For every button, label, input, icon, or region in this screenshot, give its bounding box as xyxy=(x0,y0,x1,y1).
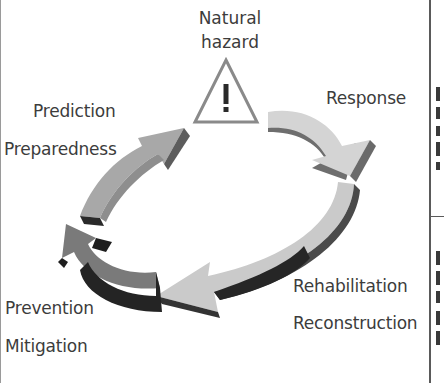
label-reconstruction: Reconstruction xyxy=(293,313,417,333)
cropped-text-fragment xyxy=(436,142,440,156)
disaster-cycle-diagram: Natural hazard Response Rehabilitation R… xyxy=(0,0,429,383)
cropped-text-fragment xyxy=(436,162,440,170)
panel-divider xyxy=(429,0,431,383)
cropped-text-fragment xyxy=(436,271,440,285)
cropped-text-fragment xyxy=(436,126,440,136)
cropped-text-fragment xyxy=(436,251,440,265)
natural-hazard-title: Natural hazard xyxy=(190,6,270,54)
warning-triangle-icon xyxy=(195,60,257,122)
label-mitigation: Mitigation xyxy=(5,336,88,356)
title-line-1: Natural xyxy=(190,6,270,30)
label-rehabilitation: Rehabilitation xyxy=(293,276,408,296)
cropped-text-fragment xyxy=(436,311,440,325)
title-line-2: hazard xyxy=(190,30,270,54)
cropped-text-fragment xyxy=(436,87,440,101)
response-arrow xyxy=(268,111,376,182)
label-prevention: Prevention xyxy=(5,298,94,318)
cropped-text-fragment xyxy=(436,291,440,303)
cropped-text-fragment xyxy=(436,107,440,119)
cropped-text-fragment xyxy=(436,331,440,345)
label-response: Response xyxy=(326,88,406,108)
label-preparedness: Preparedness xyxy=(4,139,117,159)
label-prediction: Prediction xyxy=(33,101,115,121)
panel-separator xyxy=(430,216,444,217)
recovery-arrow xyxy=(156,182,360,318)
